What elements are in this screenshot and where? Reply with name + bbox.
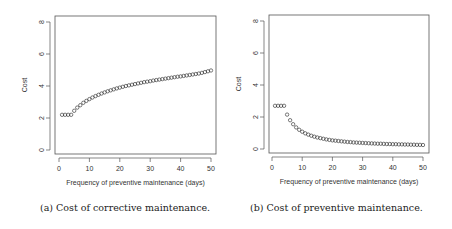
- x-tick-label: 40: [177, 165, 185, 172]
- chart-corrective-cost: 02468Cost01020304050Frequency of prevent…: [0, 0, 226, 200]
- y-axis: 02468Cost: [235, 19, 264, 151]
- data-point: [288, 119, 291, 122]
- y-tick-label: 6: [252, 51, 259, 55]
- x-tick-label: 20: [116, 165, 124, 172]
- chart-panel-a: 02468Cost01020304050Frequency of prevent…: [0, 0, 226, 200]
- x-tick-label: 10: [298, 164, 306, 171]
- data-point: [76, 106, 79, 109]
- y-tick-label: 2: [38, 116, 45, 120]
- x-tick-label: 0: [270, 164, 274, 171]
- data-point: [209, 69, 212, 72]
- y-axis-label: Cost: [235, 77, 242, 91]
- x-tick-label: 10: [86, 165, 94, 172]
- plot-area: [55, 16, 216, 154]
- data-point: [79, 104, 82, 107]
- caption-b: (b) Cost of preventive maintenance.: [250, 202, 423, 213]
- y-tick-label: 8: [252, 19, 259, 23]
- data-points: [60, 69, 212, 117]
- chart-panel-b: 02468Cost01020304050Frequency of prevent…: [226, 0, 452, 200]
- y-tick-label: 4: [252, 83, 259, 87]
- x-axis: 01020304050Frequency of preventive maint…: [270, 157, 427, 186]
- data-point: [291, 123, 294, 126]
- chart-preventive-cost: 02468Cost01020304050Frequency of prevent…: [226, 0, 452, 200]
- y-tick-label: 6: [38, 52, 45, 56]
- y-axis-label: Cost: [21, 78, 28, 92]
- y-tick-label: 8: [38, 20, 45, 24]
- data-point: [73, 109, 76, 112]
- data-point: [294, 126, 297, 129]
- caption-a: (a) Cost of corrective maintenance.: [40, 202, 210, 213]
- x-axis-label: Frequency of preventive maintenance (day…: [66, 179, 205, 187]
- x-axis: 01020304050Frequency of preventive maint…: [57, 158, 215, 187]
- data-points: [273, 104, 424, 147]
- x-tick-label: 30: [359, 164, 367, 171]
- plot-area: [269, 15, 429, 153]
- x-tick-label: 40: [389, 164, 397, 171]
- y-tick-label: 0: [252, 147, 259, 151]
- y-tick-label: 4: [38, 84, 45, 88]
- y-tick-label: 2: [252, 115, 259, 119]
- x-tick-label: 20: [329, 164, 337, 171]
- data-point: [285, 113, 288, 116]
- y-axis: 02468Cost: [21, 20, 50, 152]
- x-tick-label: 0: [57, 165, 61, 172]
- y-tick-label: 0: [38, 148, 45, 152]
- x-tick-label: 30: [146, 165, 154, 172]
- x-axis-label: Frequency of preventive maintenance (day…: [280, 178, 419, 186]
- x-tick-label: 50: [419, 164, 427, 171]
- x-tick-label: 50: [207, 165, 215, 172]
